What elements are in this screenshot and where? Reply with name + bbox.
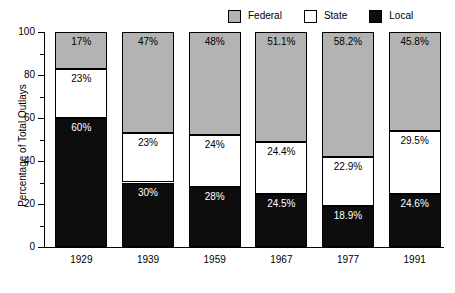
y-tick (40, 183, 44, 184)
legend-swatch-state-icon (304, 10, 317, 23)
bar-segment-state[interactable]: 23% (122, 133, 174, 182)
bar-segment-value-label: 29.5% (390, 135, 440, 146)
bar-segment-federal[interactable]: 47% (122, 32, 174, 133)
y-tick (40, 97, 44, 98)
bar-1977[interactable]: 18.9%22.9%58.2% (322, 32, 374, 247)
plot-area: 020406080100 60%23%17%30%23%47%28%24%48%… (44, 32, 444, 247)
bar-segment-federal[interactable]: 58.2% (322, 32, 374, 157)
chart-figure: FederalStateLocal Percentage of Total Ou… (0, 0, 455, 293)
bar-segment-value-label: 18.9% (323, 210, 373, 221)
y-tick-label: 40 (24, 155, 35, 166)
bar-segment-local[interactable]: 60% (55, 118, 107, 247)
y-axis-line (44, 32, 45, 247)
y-tick (40, 54, 44, 55)
y-tick: 60 (38, 118, 44, 119)
y-tick (40, 140, 44, 141)
y-tick (40, 226, 44, 227)
legend-item-local[interactable]: Local (369, 10, 413, 23)
bar-segment-value-label: 47% (123, 36, 173, 47)
bar-segment-value-label: 30% (123, 187, 173, 198)
bar-segment-state[interactable]: 24.4% (255, 142, 307, 194)
legend-item-state[interactable]: State (304, 10, 347, 23)
bar-segment-state[interactable]: 22.9% (322, 157, 374, 206)
legend-swatch-federal-icon (228, 10, 241, 23)
bar-1929[interactable]: 60%23%17% (55, 32, 107, 247)
bar-segment-local[interactable]: 30% (122, 183, 174, 248)
y-tick: 80 (38, 75, 44, 76)
bar-segment-state[interactable]: 24% (189, 135, 241, 187)
chart-legend: FederalStateLocal (228, 8, 413, 24)
bar-1991[interactable]: 24.6%29.5%45.8% (389, 32, 441, 247)
bar-segment-value-label: 24.6% (390, 198, 440, 209)
bar-segment-state[interactable]: 23% (55, 69, 107, 118)
bar-segment-federal[interactable]: 45.8% (389, 32, 441, 130)
bar-segment-value-label: 24.5% (256, 198, 306, 209)
bar-segment-federal[interactable]: 17% (55, 32, 107, 69)
bar-segment-value-label: 23% (56, 73, 106, 84)
y-tick-label: 60 (24, 112, 35, 123)
bar-1959[interactable]: 28%24%48% (189, 32, 241, 247)
y-tick: 40 (38, 161, 44, 162)
y-tick: 20 (38, 204, 44, 205)
x-tick-label-1991: 1991 (375, 254, 455, 265)
bar-segment-local[interactable]: 28% (189, 187, 241, 247)
bar-segment-value-label: 60% (56, 122, 106, 133)
bar-segment-value-label: 17% (56, 36, 106, 47)
bar-segment-federal[interactable]: 48% (189, 32, 241, 135)
bar-segment-federal[interactable]: 51.1% (255, 32, 307, 142)
bar-segment-local[interactable]: 18.9% (322, 206, 374, 247)
bar-segment-value-label: 51.1% (256, 36, 306, 47)
legend-label: State (324, 11, 347, 21)
bar-segment-local[interactable]: 24.6% (389, 194, 441, 247)
bar-segment-value-label: 58.2% (323, 36, 373, 47)
bar-segment-value-label: 45.8% (390, 36, 440, 47)
x-axis-line (44, 247, 444, 248)
bar-1939[interactable]: 30%23%47% (122, 32, 174, 247)
bar-segment-value-label: 22.9% (323, 161, 373, 172)
y-tick-label: 0 (29, 241, 35, 252)
bar-segment-value-label: 23% (123, 137, 173, 148)
y-tick: 0 (38, 247, 44, 248)
bar-segment-value-label: 24.4% (256, 146, 306, 157)
y-tick-label: 20 (24, 198, 35, 209)
y-tick-label: 100 (18, 26, 35, 37)
legend-swatch-local-icon (369, 10, 382, 23)
bar-1967[interactable]: 24.5%24.4%51.1% (255, 32, 307, 247)
bar-segment-local[interactable]: 24.5% (255, 194, 307, 247)
legend-label: Local (389, 11, 413, 21)
legend-item-federal[interactable]: Federal (228, 10, 282, 23)
y-tick-label: 80 (24, 69, 35, 80)
bar-segment-value-label: 24% (190, 139, 240, 150)
bar-segment-value-label: 28% (190, 191, 240, 202)
legend-label: Federal (248, 11, 282, 21)
y-tick: 100 (38, 32, 44, 33)
bar-segment-state[interactable]: 29.5% (389, 131, 441, 194)
bar-segment-value-label: 48% (190, 36, 240, 47)
